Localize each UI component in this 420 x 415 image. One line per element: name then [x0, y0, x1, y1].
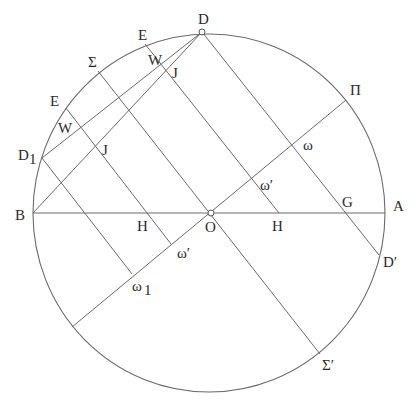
label-omega1: ω [132, 278, 142, 294]
labels: DEWJΣEWJD1BHOHGAΠωω′ω′ω1D′Σ′ [15, 11, 404, 373]
label-J-top: J [172, 65, 178, 81]
label-D: D [198, 11, 209, 27]
label-H-right: H [272, 218, 283, 234]
label-omega1-sub: 1 [144, 282, 152, 298]
line-E-top-H [145, 44, 279, 213]
label-D1: D [18, 147, 29, 163]
label-W-left: W [58, 120, 73, 136]
label-Sigmaprime: Σ′ [322, 357, 334, 373]
label-omegaprime-lower: ω′ [177, 245, 190, 261]
label-B: B [15, 207, 25, 223]
label-W-top: W [148, 52, 163, 68]
label-J-left: J [102, 142, 108, 158]
label-G: G [342, 194, 353, 210]
label-omegaprime-upper: ω′ [260, 177, 273, 193]
label-Sigma: Σ [88, 54, 97, 70]
label-omega: ω [303, 137, 313, 153]
label-Dprime: D′ [383, 254, 397, 270]
geometry-diagram: DEWJΣEWJD1BHOHGAΠωω′ω′ω1D′Σ′ [0, 0, 420, 415]
point-O [208, 210, 214, 216]
line-D-D1 [42, 32, 202, 158]
points [199, 29, 214, 216]
label-D1-sub: 1 [29, 151, 37, 167]
point-D [199, 29, 205, 35]
label-H-left: H [137, 218, 148, 234]
line-E-left-omegaprime [66, 108, 171, 244]
label-Pi: Π [350, 82, 361, 98]
label-A: A [393, 198, 404, 214]
label-E-top: E [138, 27, 147, 43]
label-O: O [205, 219, 216, 235]
line-segments [33, 32, 385, 354]
line-D-Dprime [202, 32, 379, 255]
label-E-left: E [50, 93, 59, 109]
